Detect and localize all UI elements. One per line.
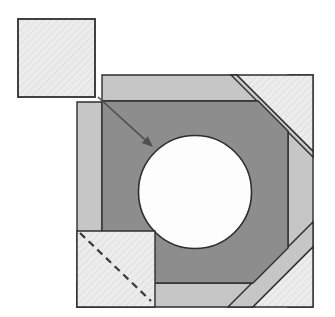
quilt-block-diagram <box>0 0 335 317</box>
detached-corner-square <box>18 19 95 97</box>
diagram-canvas <box>0 0 335 317</box>
